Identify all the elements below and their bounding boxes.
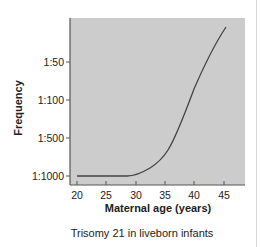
x-axis-label: Maternal age (years) [105, 202, 212, 214]
x-tick-label: 20 [71, 189, 83, 201]
x-tick-label: 45 [218, 189, 230, 201]
y-tick-label: 1:1000 [32, 170, 64, 182]
y-tick-label: 1:50 [44, 56, 65, 68]
y-tick-label: 1:500 [38, 132, 64, 144]
figure-caption: Trisomy 21 in liveborn infants [71, 227, 214, 239]
x-tick-label: 25 [100, 189, 112, 201]
x-tick-label: 30 [130, 189, 142, 201]
plot-area [70, 18, 245, 185]
x-tick-label: 40 [188, 189, 200, 201]
y-tick-labels: 1:50 1:100 1:500 1:1000 [32, 56, 64, 182]
x-tick-label: 35 [159, 189, 171, 201]
y-axis-label: Frequency [12, 79, 24, 136]
figure: 1:50 1:100 1:500 1:1000 20 25 30 35 40 4… [0, 0, 260, 247]
panel-border [256, 0, 257, 247]
x-tick-labels: 20 25 30 35 40 45 [71, 189, 230, 201]
chart: 1:50 1:100 1:500 1:1000 20 25 30 35 40 4… [0, 0, 260, 247]
y-tick-label: 1:100 [38, 94, 64, 106]
